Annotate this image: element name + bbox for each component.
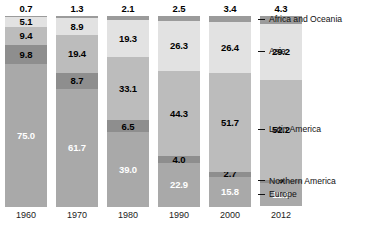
segment-value-label: 6.5 bbox=[122, 122, 135, 132]
bar-segment: 44.3 bbox=[158, 71, 200, 156]
bar-segment: 19.4 bbox=[56, 35, 98, 72]
segment-value-label: 9.4 bbox=[20, 31, 33, 41]
legend-item-latin-america: Latin America bbox=[258, 125, 321, 134]
bar-stack: 1.38.919.48.761.7 bbox=[56, 16, 98, 207]
legend-item-africa-and-oceania: Africa and Oceania bbox=[258, 15, 342, 24]
bar-column: 2.12.119.333.16.539.01980 bbox=[107, 0, 149, 232]
segment-value-label: 5.1 bbox=[20, 17, 33, 27]
bar-segment: 61.7 bbox=[56, 89, 98, 207]
segment-value-label: 8.7 bbox=[71, 76, 84, 86]
legend-item-europe: Europe bbox=[258, 190, 297, 199]
bar-stack: 0.75.19.49.875.0 bbox=[5, 16, 47, 207]
legend-label: Europe bbox=[269, 190, 297, 199]
bar-column: 3.43.426.451.72.715.82000 bbox=[209, 0, 251, 232]
bar-segment: 39.0 bbox=[107, 132, 149, 206]
segment-value-label: 33.1 bbox=[119, 84, 137, 94]
bar-segment: 9.8 bbox=[5, 45, 47, 64]
segment-value-label: 39.0 bbox=[119, 165, 137, 175]
legend-dash-icon bbox=[258, 180, 265, 181]
segment-value-label: 19.4 bbox=[68, 49, 86, 59]
bar-segment: 6.5 bbox=[107, 120, 149, 132]
bar-segment: 4.0 bbox=[158, 156, 200, 164]
bar-stack: 2.526.344.34.022.9 bbox=[158, 16, 200, 207]
legend-dash-icon bbox=[258, 51, 265, 52]
legend-item-northern-america: Northern America bbox=[258, 177, 336, 186]
segment-value-label: 19.3 bbox=[119, 34, 137, 44]
bar-stack: 3.426.451.72.715.8 bbox=[209, 16, 251, 207]
segment-value-label: 4.0 bbox=[173, 156, 186, 164]
bar-column: 0.70.75.19.49.875.01960 bbox=[5, 0, 47, 232]
bar-segment: 8.7 bbox=[56, 73, 98, 90]
bar-segment: 26.3 bbox=[158, 21, 200, 71]
bar-segment: 9.4 bbox=[5, 27, 47, 45]
legend-dash-icon bbox=[258, 129, 265, 130]
segment-value-label: 15.8 bbox=[221, 187, 239, 197]
bar-total-label: 1.3 bbox=[56, 3, 98, 14]
bar-segment: 19.3 bbox=[107, 20, 149, 57]
bar-segment: 5.1 bbox=[5, 17, 47, 27]
segment-value-label: 22.9 bbox=[170, 180, 188, 190]
x-axis-year-label: 1990 bbox=[158, 210, 200, 220]
bar-segment: 15.8 bbox=[209, 177, 251, 207]
plot-area: 0.70.75.19.49.875.019601.31.38.919.48.76… bbox=[0, 0, 258, 232]
legend-label: Latin America bbox=[269, 125, 321, 134]
x-axis-year-label: 1980 bbox=[107, 210, 149, 220]
stacked-bar-chart: 0.70.75.19.49.875.019601.31.38.919.48.76… bbox=[0, 0, 369, 232]
bar-segment: 75.0 bbox=[5, 64, 47, 207]
bar-column: 2.52.526.344.34.022.91990 bbox=[158, 0, 200, 232]
bar-segment: 8.9 bbox=[56, 18, 98, 35]
legend-label: Africa and Oceania bbox=[269, 15, 342, 24]
x-axis-year-label: 1960 bbox=[5, 210, 47, 220]
segment-value-label: 26.4 bbox=[221, 43, 239, 53]
segment-value-label: 44.3 bbox=[170, 109, 188, 119]
x-axis-year-label: 2000 bbox=[209, 210, 251, 220]
bar-segment: 26.4 bbox=[209, 22, 251, 72]
bar-segment: 22.9 bbox=[158, 163, 200, 207]
bar-total-label: 2.1 bbox=[107, 3, 149, 14]
segment-value-label: 75.0 bbox=[17, 131, 35, 141]
segment-value-label: 61.7 bbox=[68, 143, 86, 153]
segment-value-label: 51.7 bbox=[221, 118, 239, 128]
bar-total-label: 3.4 bbox=[209, 3, 251, 14]
bar-column: 1.31.38.919.48.761.71970 bbox=[56, 0, 98, 232]
segment-value-label: 9.8 bbox=[20, 50, 33, 60]
legend-dash-icon bbox=[258, 194, 265, 195]
legend-item-asia: Asia bbox=[258, 47, 286, 56]
x-axis-year-label: 1970 bbox=[56, 210, 98, 220]
legend-label: Northern America bbox=[269, 177, 336, 186]
chart-legend: Africa and OceaniaAsiaLatin AmericaNorth… bbox=[258, 0, 369, 232]
bar-total-label: 2.5 bbox=[158, 3, 200, 14]
bar-segment: 33.1 bbox=[107, 57, 149, 120]
bar-total-label: 0.7 bbox=[5, 3, 47, 14]
legend-label: Asia bbox=[269, 47, 286, 56]
legend-dash-icon bbox=[258, 19, 265, 20]
bar-segment: 51.7 bbox=[209, 73, 251, 172]
segment-value-label: 26.3 bbox=[170, 41, 188, 51]
bar-stack: 2.119.333.16.539.0 bbox=[107, 16, 149, 207]
segment-value-label: 8.9 bbox=[71, 22, 84, 32]
